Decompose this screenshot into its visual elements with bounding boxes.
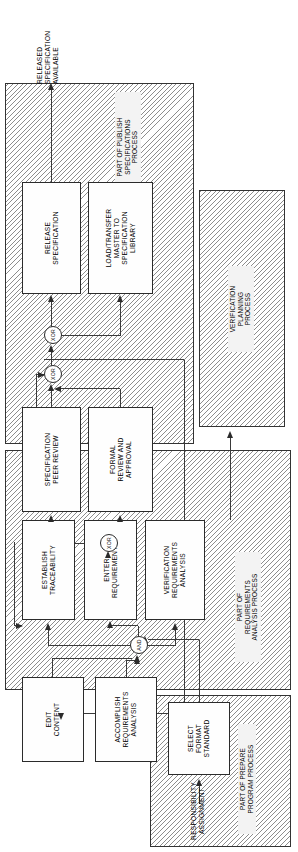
connector-formalreview-out bbox=[120, 389, 121, 407]
arrowhead-enterreq-xorbottom bbox=[105, 551, 111, 558]
arrowhead-xormid-xortop bbox=[48, 345, 54, 352]
connector-and-to-verreq bbox=[175, 628, 176, 646]
arrowhead-load-transfer bbox=[117, 295, 123, 302]
connector-and-enterreq-riser bbox=[110, 625, 138, 626]
arrowhead-xorbottom-peer bbox=[48, 515, 54, 522]
connector-xortop-drop bbox=[52, 335, 120, 336]
connector-trace-feedback bbox=[14, 542, 15, 626]
label-responsibility-assignment: RESPONSIBILITY ASSIGNMENT bbox=[190, 780, 206, 842]
arrowhead-responsibility-selectformat bbox=[196, 779, 202, 786]
diagram-stage: PART OF PUBLISH SPECIFICATIONS PROCESS V… bbox=[0, 0, 298, 852]
gate-xor-bottom[interactable]: XOR bbox=[100, 534, 118, 552]
lane-label-requirements-analysis: PART OF REQUIREMENTS ANALYSIS PROCESS bbox=[235, 552, 261, 662]
node-formal-review-approval[interactable]: FORMAL REVIEW AND APPROVAL bbox=[88, 407, 153, 512]
connector-formalreview-up bbox=[60, 388, 120, 389]
arrowhead-trace-feedback bbox=[16, 624, 23, 630]
gate-xor-mid[interactable]: XOR bbox=[44, 365, 62, 383]
connector-accomplish-to-and bbox=[126, 661, 127, 677]
node-accomplish-requirements-analysis[interactable]: ACCOMPLISH REQUIREMENTS ANALYSIS bbox=[95, 677, 157, 762]
connector-editcontent-riser bbox=[52, 658, 132, 659]
connector-and-to-trace bbox=[48, 628, 49, 646]
node-specification-peer-review[interactable]: SPECIFICATION PEER REVIEW bbox=[22, 407, 81, 512]
gate-xor-top[interactable]: XOR bbox=[44, 326, 62, 344]
connector-verreq-to-verplanning bbox=[230, 435, 231, 520]
connector-and-up bbox=[48, 645, 132, 646]
node-load-transfer-master[interactable]: LOAD/TRANSFER MASTER TO SPECIFICATION LI… bbox=[88, 182, 153, 294]
arrowhead-and-verreq bbox=[172, 623, 178, 630]
node-release-specification[interactable]: RELEASE SPECIFICATION bbox=[22, 182, 81, 294]
connector-selectformat-to-and bbox=[199, 640, 200, 702]
connector-selectformat-riser bbox=[148, 639, 199, 640]
arrowhead-and-trace bbox=[45, 623, 51, 630]
arrowhead-accomplish-and bbox=[134, 657, 140, 664]
connector-feedback-riser bbox=[44, 359, 184, 360]
diagram-canvas: PART OF PUBLISH SPECIFICATIONS PROCESS V… bbox=[0, 0, 298, 852]
node-select-format-standard[interactable]: SELECT FORMAT STANDARD bbox=[168, 702, 230, 775]
connector-xortop-to-release bbox=[51, 300, 52, 328]
connector-editcontent-to-and bbox=[52, 659, 53, 677]
arrowhead-xortop-release bbox=[48, 295, 54, 302]
arrowhead-feedback-editcontent bbox=[58, 713, 64, 720]
arrowhead-verification-planning bbox=[227, 431, 233, 438]
connector-xortop-to-load bbox=[120, 300, 121, 336]
label-released-specification-available: RELEASED SPECIFICATION AVAILABLE bbox=[36, 6, 60, 84]
arrowhead-formalreview-xormid bbox=[54, 387, 61, 393]
gate-and[interactable]: AND bbox=[130, 636, 148, 654]
lane-label-verification-planning: VERIFICATION PLANNING PROCESS bbox=[228, 266, 254, 352]
arrowhead-output bbox=[48, 83, 54, 90]
connector-release-to-output bbox=[51, 86, 52, 182]
arrowhead-and-enterreq bbox=[107, 621, 113, 628]
arrowhead-xorbottom-formal bbox=[117, 515, 123, 522]
node-establish-traceability[interactable]: ESTABLISH TRACEABILITY bbox=[22, 520, 75, 620]
node-edit-content[interactable]: EDIT CONTENT bbox=[22, 677, 84, 762]
lane-label-prepare-program: PART OF PREPARE PROGRAM PROCESS bbox=[238, 724, 256, 834]
node-verification-requirements-analysis[interactable]: VERIFICATION REQUIREMENTS ANALYSIS bbox=[145, 520, 205, 620]
